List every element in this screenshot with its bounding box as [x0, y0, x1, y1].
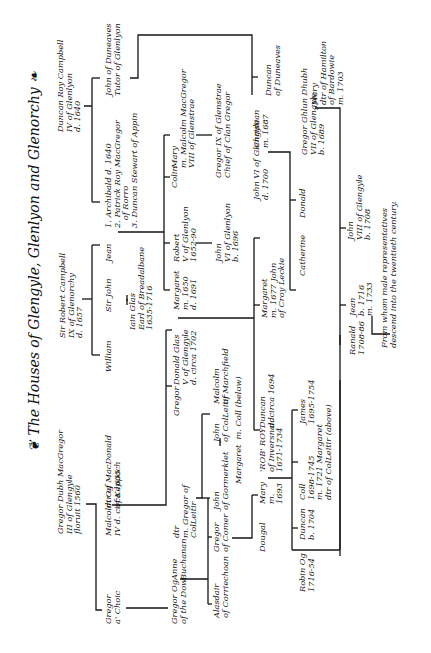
- person-rob-roy: 'ROB' ROY of Inversnaid 1671-1734: [258, 417, 284, 472]
- descendants-note: From whom male representatives descend i…: [380, 201, 397, 348]
- person-alasdair: Alasdair of Corriechoan: [212, 556, 229, 618]
- chart-title: ❦ The Houses of Glengyle, Glenlyon and G…: [26, 71, 42, 452]
- person-jean: Jean: [104, 244, 113, 262]
- person-donald: Donald: [298, 188, 307, 218]
- chart-title-text: The Houses of Glengyle, Glenlyon and Gle…: [26, 87, 42, 435]
- person-jean-1716: Jean b. 1716 m. 1733: [348, 282, 374, 316]
- person-duncan-of-duneaves: Duncan of Duneaves: [264, 45, 281, 96]
- person-archibald-patrick-duncan: 1. Archibald d. 1640 2. Patrick Roy MacG…: [104, 113, 138, 228]
- person-mary-m-malcolm: Mary m. Malcolm MacGregor VIII of Glenst…: [170, 69, 196, 168]
- person-william: William: [104, 341, 113, 372]
- person-mary-hamilton: Mary dtr of Hamilton of Bardowie m. 1703: [310, 41, 344, 105]
- person-john-of-duneaves: John of Duneaves Tutor of Glenlyon: [104, 23, 121, 96]
- person-robert-v-glenlyon: Robert V of Glenlyon 1652-90: [172, 206, 198, 262]
- person-margaret-m-coll: Margaret m. Coll (below): [234, 376, 243, 484]
- person-duncan-roy-campbell: Duncan Roy Campbell IV of Glenlyon d. 16…: [56, 40, 82, 132]
- person-margaret-croy: Margaret m. 1677 John of Croy Leckie: [260, 258, 286, 318]
- ornament-left-icon: ❦: [26, 440, 42, 452]
- person-gregor: Gregor: [172, 387, 181, 416]
- person-john-gormerklet: John of Gormerklet: [212, 452, 229, 510]
- person-john-vi-glenlyon: John VI of Glenlyon b. 1696: [214, 203, 240, 262]
- person-john-viii: John VIII of Glengyle b. 1708: [346, 175, 372, 240]
- person-gregor-a-choic: Gregor a' Choic: [104, 591, 121, 624]
- person-christian: Christian m. 1687: [252, 110, 269, 148]
- person-duncan-1704: Duncan b. 1704: [298, 508, 315, 540]
- person-margaret-1650: Margaret m. 1650 d. 1691: [172, 271, 198, 310]
- person-john-colleitir: John of ColLeitir: [212, 395, 229, 442]
- person-ranald: Ranald 1708-86: [348, 321, 365, 355]
- person-iain-glas: Iain Glas Earl of Breadalbane 1635-1716: [128, 247, 154, 330]
- genealogy-chart: ❦ The Houses of Glengyle, Glenlyon and G…: [0, 0, 431, 653]
- person-gregor-og: Gregor Og of the Dow: [170, 579, 187, 624]
- person-dougal: Dougal: [258, 522, 267, 552]
- person-gregor-ix-glenstrae: Gregor IX of Glenstrae Chief of Clan Gre…: [214, 83, 231, 178]
- person-catherine: Catherine: [298, 235, 307, 276]
- person-mary-1693: Mary m. 1693: [258, 482, 284, 504]
- person-dtr-m-gregor: dtr m. Gregor of ColLeitir: [172, 485, 198, 538]
- person-anne-buchanan: Anne Buchanan: [170, 539, 187, 580]
- person-robin-og: Robin Og 1716-54: [298, 553, 315, 592]
- person-dtr-keppoch: dtr of MacDonald of Keppoch: [104, 435, 121, 508]
- person-sir-john: Sir John: [104, 278, 113, 312]
- person-gregor-of-comer: Gregor of Comer: [212, 514, 229, 552]
- person-donald-glas: Donald Glas V of Glengyle d. circa 1702: [172, 329, 198, 385]
- ornament-right-icon: ❧: [26, 71, 42, 83]
- person-sir-robert-campbell: Sir Robert Campbell IX of Glenorchy d. 1…: [58, 253, 84, 338]
- person-coll: Coll 1698-1745 m. 1721 Margaret dtr of C…: [298, 404, 332, 500]
- person-gregor-dubh: Gregor Dubh MacGregor III of Glengyle fl…: [56, 430, 82, 534]
- person-colin: Colin: [170, 166, 179, 188]
